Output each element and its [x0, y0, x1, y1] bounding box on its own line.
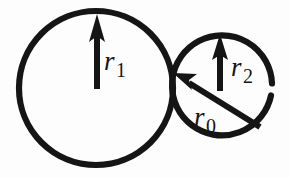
label-r2-subscript: 2 [243, 65, 253, 87]
label-r1: r1 [104, 48, 126, 80]
label-r1-variable: r [104, 46, 114, 76]
label-r0: r0 [194, 104, 216, 136]
label-r0-subscript: 0 [206, 115, 216, 137]
label-r1-subscript: 1 [116, 59, 126, 81]
figure-canvas: r1 r2 r0 [0, 0, 290, 178]
label-r2-variable: r [231, 52, 241, 82]
label-r2: r2 [231, 54, 253, 86]
label-r0-variable: r [194, 102, 204, 132]
circles-diagram [0, 0, 290, 178]
